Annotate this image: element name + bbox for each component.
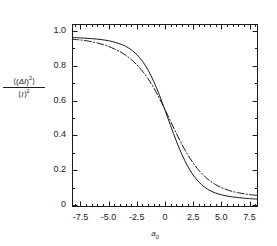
y-tick-label-4: 0.8 [38, 60, 66, 70]
y-tick-label-3: 0.6 [38, 95, 66, 105]
y-tick-label-2: 0.4 [38, 129, 66, 139]
y-tick-label-0: 0 [38, 199, 66, 209]
x-axis-label: a0 [140, 229, 170, 240]
axis-minor-ticks [72, 24, 258, 207]
x-tick-label-6: 7.5 [233, 212, 267, 222]
chart-plot-svg [0, 0, 277, 246]
curve-solid [72, 38, 258, 200]
axis-major-ticks [72, 24, 258, 207]
data-curves [72, 38, 258, 200]
y-tick-label-1: 0.2 [38, 164, 66, 174]
y-tick-label-5: 1.0 [38, 25, 66, 35]
y-axis-label-numerator: ⟨(ΔI)2⟩ [3, 76, 45, 88]
figure-chart-intensity-variance: ⟨(ΔI)2⟩ ⟨I⟩2 a0 00.20.40.60.81.0 -7.5-5.… [0, 0, 277, 246]
axes-frame [73, 25, 258, 207]
plot-frame [73, 25, 258, 207]
curve-dash-dot [72, 39, 258, 195]
